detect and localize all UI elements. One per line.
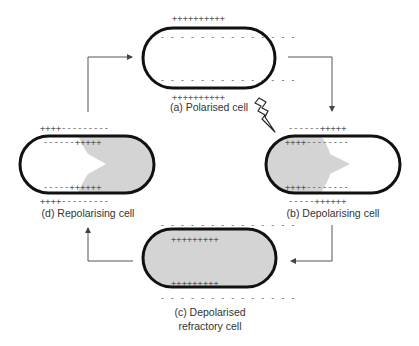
cell-a-outer-top-charge: ++++++++++	[172, 14, 225, 23]
cell-a-inner-bottom-charge: - - - - - - - - - - - - - -	[160, 76, 295, 85]
cell-b-label: (b) Depolarising cell	[268, 207, 398, 220]
cell-c-label-line2: refractory cell	[150, 320, 270, 333]
cell-c-inner-top-charge: +++++++++	[171, 235, 219, 244]
cell-b-outer-top-charge: ------+++++	[288, 124, 347, 133]
cell-a-inner-top-charge: - - - - - - - - - - - - - -	[160, 33, 295, 42]
cell-d-inner-bottom-charge: -----++++++	[43, 183, 102, 192]
cell-a-label: (a) Polarised cell	[150, 101, 268, 114]
arrow-b-to-c	[291, 225, 332, 261]
cell-b-outer-bottom-charge: -----++++++	[288, 197, 347, 206]
cell-c-outer-top-charge: - - - - - - - - - - - - - -	[160, 221, 295, 230]
arrow-d-to-a	[88, 57, 132, 112]
cell-d-inner-top-charge: ------+++++	[43, 138, 102, 147]
cell-d-outer-bottom-charge: ++++---------	[40, 197, 109, 206]
cell-c-label-line1: (c) Depolarised	[150, 306, 270, 319]
cell-d-label: (d) Repolarising cell	[22, 207, 154, 220]
arrow-c-to-d	[88, 228, 133, 261]
cell-b-inner-bottom-charge: ++++--------	[285, 183, 349, 192]
cell-d-outer-top-charge: ++++---------	[40, 124, 109, 133]
cell-c-inner-bottom-charge: +++++++++	[171, 279, 219, 288]
cell-b-inner-top-charge: ++++--------	[285, 138, 349, 147]
cell-c-outer-bottom-charge: - - - - - - - - - - - - - -	[160, 294, 295, 303]
